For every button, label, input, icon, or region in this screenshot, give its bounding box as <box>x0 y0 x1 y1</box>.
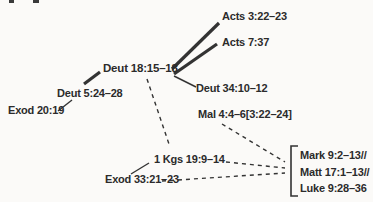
edge-exod33-bracket <box>162 173 285 181</box>
node-luke: Luke 9:28–36 <box>300 182 367 194</box>
node-acts-7: Acts 7:37 <box>222 36 269 48</box>
node-acts-3: Acts 3:22–23 <box>222 10 287 22</box>
node-deut-34: Deut 34:10–12 <box>196 82 267 94</box>
node-matt: Matt 17:1–13// <box>300 166 369 178</box>
edge-mal-bracket <box>222 124 285 162</box>
diagram-page: Acts 3:22–23 Acts 7:37 Deut 18:15–18 Deu… <box>0 0 373 202</box>
edge-kgs-bracket <box>226 162 285 168</box>
synoptics-bracket <box>291 146 298 196</box>
node-exod-33: Exod 33:21–23 <box>105 173 179 185</box>
node-mal: Mal 4:4–6[3:22–24] <box>198 108 292 120</box>
edge-deut18-deut34 <box>174 76 196 87</box>
node-mark: Mark 9:2–13// <box>300 149 367 161</box>
node-exod-20: Exod 20:19 <box>8 104 64 116</box>
edge-deut5-deut18 <box>84 72 100 84</box>
node-kgs: 1 Kgs 19:9–14 <box>154 153 225 165</box>
node-deut-5: Deut 5:24–28 <box>57 87 122 99</box>
edge-deut18-kgs <box>147 79 170 147</box>
node-deut-18: Deut 18:15–18 <box>103 62 178 75</box>
